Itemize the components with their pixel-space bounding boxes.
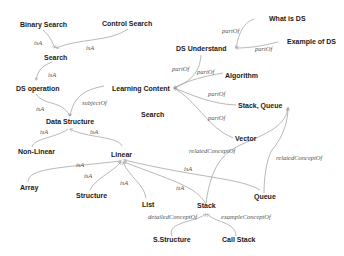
- edge-nonlinear-data-structure: [32, 129, 68, 147]
- edge-label-e18: partOf: [207, 114, 227, 121]
- edge-queue-stack-queue: [264, 108, 288, 193]
- node-data-structure: Data Structure: [46, 118, 94, 125]
- edge-algorithm-learning-content: [174, 73, 223, 88]
- edge-label-e15: partOf: [171, 65, 191, 72]
- node-learning-content: Learning Content: [112, 85, 171, 93]
- edge-structure-linear: [90, 162, 121, 190]
- node-ds-understand: DS Understand: [176, 45, 227, 52]
- node-control-search: Control Search: [102, 20, 152, 27]
- node-call-stack: Call Stack: [222, 236, 256, 243]
- node-stack-queue: Stack, Queue: [238, 102, 282, 110]
- node-structure: Structure: [76, 192, 107, 199]
- node-stack: Stack: [197, 202, 216, 209]
- node-example-of-ds: Example of DS: [287, 38, 336, 46]
- node-list: List: [142, 201, 155, 208]
- node-what-is-ds: What is DS: [269, 15, 306, 22]
- edge-label-e22: exampleConceptOf: [221, 213, 272, 220]
- edge-label-e21: detailedConceptOf: [148, 213, 198, 220]
- edge-label-e20: relatedConceptOf: [276, 154, 324, 161]
- edge-label-e13: partOf: [221, 27, 241, 34]
- edge-label-e7: isA: [90, 128, 98, 135]
- node-search-top: Search: [44, 54, 67, 61]
- node-queue: Queue: [254, 193, 276, 201]
- edge-label-e8: isA: [76, 161, 84, 168]
- node-s-structure: S.Structure: [153, 236, 191, 243]
- nodes: Binary Search Control Search Search DS o…: [16, 15, 336, 243]
- node-non-linear: Non-Linear: [18, 148, 55, 155]
- edge-stack-queue-learning-content: [174, 88, 236, 105]
- edge-binary-search-search: [43, 30, 55, 48]
- node-binary-search: Binary Search: [20, 21, 67, 29]
- edge-label-e2: isA: [86, 44, 94, 51]
- concept-map-svg: isA isA isA subjectOf isA isA isA isA is…: [0, 0, 344, 256]
- edge-label-e4: subjectOf: [82, 99, 108, 106]
- edge-label-e9: isA: [84, 172, 92, 179]
- edge-label-e11: isA: [184, 165, 192, 172]
- edges: [28, 19, 288, 236]
- node-algorithm: Algorithm: [225, 72, 258, 80]
- edge-label-e5: isA: [36, 105, 44, 112]
- edge-label-e10: isA: [120, 179, 128, 186]
- edge-stack-linear: [124, 162, 206, 204]
- edge-label-e1: isA: [34, 39, 42, 46]
- edge-label-e19: relatedConceptOf: [189, 147, 237, 154]
- edge-label-e6: isA: [40, 128, 48, 135]
- concept-map-canvas: isA isA isA subjectOf isA isA isA isA is…: [0, 0, 344, 256]
- edge-label-e3: isA: [48, 71, 56, 78]
- edge-label-e12: isA: [176, 184, 184, 191]
- edge-array-linear: [28, 161, 121, 182]
- node-vector: Vector: [235, 135, 257, 142]
- edge-label-e16: partOf: [196, 68, 216, 75]
- edge-label-e17: partOf: [207, 90, 227, 97]
- edge-label-e14: partOf: [254, 45, 274, 52]
- node-array: Array: [20, 184, 38, 192]
- node-search-mid: Search: [141, 111, 164, 118]
- node-ds-operation: DS operation: [16, 85, 60, 93]
- node-linear: Linear: [111, 151, 132, 158]
